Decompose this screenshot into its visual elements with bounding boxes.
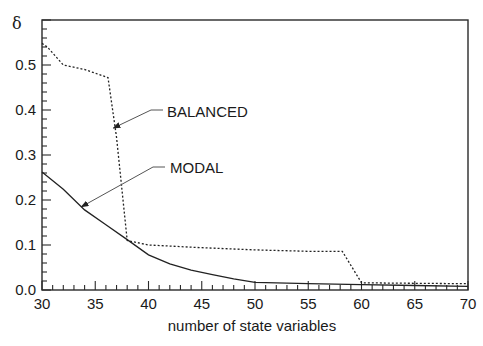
modal-annotation-label: MODAL xyxy=(170,159,223,176)
x-tick-label: 60 xyxy=(353,295,370,312)
axis-tick-labels: 3035404550556065700.00.10.20.30.40.5 xyxy=(15,56,476,312)
balanced-annotation-label: BALANCED xyxy=(167,103,248,120)
y-tick-label: 0.0 xyxy=(15,281,36,298)
x-tick-label: 45 xyxy=(193,295,210,312)
annotation-leader-line xyxy=(113,110,163,128)
line-chart: 3035404550556065700.00.10.20.30.40.5 BAL… xyxy=(0,0,483,346)
y-tick-label: 0.5 xyxy=(15,56,36,73)
x-axis-label: number of state variables xyxy=(168,317,336,334)
y-tick-label: 0.2 xyxy=(15,191,36,208)
y-tick-label: 0.1 xyxy=(15,236,36,253)
y-axis-label: δ xyxy=(12,14,22,33)
x-tick-label: 70 xyxy=(460,295,477,312)
y-tick-label: 0.4 xyxy=(15,101,36,118)
modal-series-line xyxy=(42,172,468,286)
x-tick-label: 35 xyxy=(87,295,104,312)
y-tick-label: 0.3 xyxy=(15,146,36,163)
series-annotations: BALANCEDMODAL xyxy=(81,103,248,207)
x-tick-label: 30 xyxy=(34,295,51,312)
x-tick-label: 55 xyxy=(300,295,317,312)
x-tick-label: 50 xyxy=(247,295,264,312)
x-tick-label: 65 xyxy=(406,295,423,312)
data-series xyxy=(42,43,468,286)
x-tick-label: 40 xyxy=(140,295,157,312)
balanced-series-line xyxy=(42,43,468,283)
